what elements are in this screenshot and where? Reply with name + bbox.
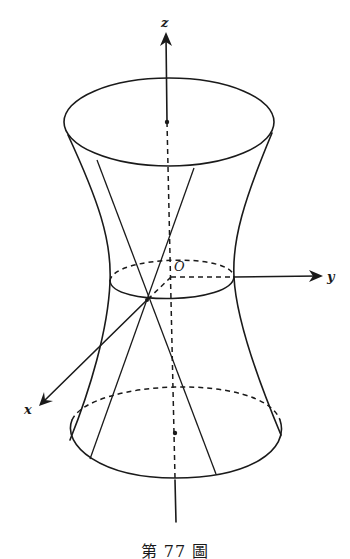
figure-caption: 第 77 圖 xyxy=(0,538,350,559)
y-axis: y xyxy=(171,269,336,284)
waist-ellipse-back xyxy=(110,260,234,281)
origin-label: O xyxy=(174,259,185,274)
top-center-dot xyxy=(165,120,169,124)
right-profile xyxy=(234,133,281,435)
ruling-line-2 xyxy=(90,168,194,459)
z-axis-label: z xyxy=(160,15,169,30)
bottom-center-dot xyxy=(173,431,177,435)
left-profile xyxy=(68,135,110,440)
bottom-ellipse-front xyxy=(70,420,281,478)
bottom-ellipse-back xyxy=(72,387,280,420)
ruling-line-1 xyxy=(97,160,216,474)
y-axis-label: y xyxy=(326,269,336,284)
waist-ellipse-front xyxy=(110,277,234,299)
hyperboloid-diagram: z y x O xyxy=(0,0,350,559)
x-axis: x xyxy=(23,277,171,417)
x-axis-label: x xyxy=(23,402,32,417)
